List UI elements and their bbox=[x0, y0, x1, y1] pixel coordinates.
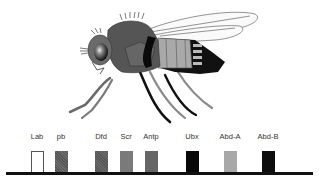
gene-bar-lab bbox=[31, 151, 44, 173]
gene-bar-antp bbox=[145, 151, 158, 173]
gene-label-ubx: Ubx bbox=[177, 132, 207, 141]
abdomen bbox=[158, 38, 225, 74]
gene-bar-abd-a bbox=[224, 151, 237, 173]
gene-bar-abd-b bbox=[262, 151, 275, 173]
gene-label-abd-b: Abd-B bbox=[253, 132, 283, 141]
gene-label-pb: pb bbox=[46, 132, 76, 141]
gene-bar-pb bbox=[55, 151, 68, 173]
thorax bbox=[108, 12, 160, 73]
gene-label-abd-a: Abd-A bbox=[215, 132, 245, 141]
fly-illustration bbox=[0, 0, 319, 135]
chromosome-baseline bbox=[6, 172, 313, 175]
gene-label-antp: Antp bbox=[136, 132, 166, 141]
gene-bar-ubx bbox=[186, 151, 199, 173]
gene-bar-scr bbox=[120, 151, 133, 173]
gene-bar-dfd bbox=[95, 151, 108, 173]
legs bbox=[70, 72, 212, 122]
head bbox=[80, 28, 112, 74]
